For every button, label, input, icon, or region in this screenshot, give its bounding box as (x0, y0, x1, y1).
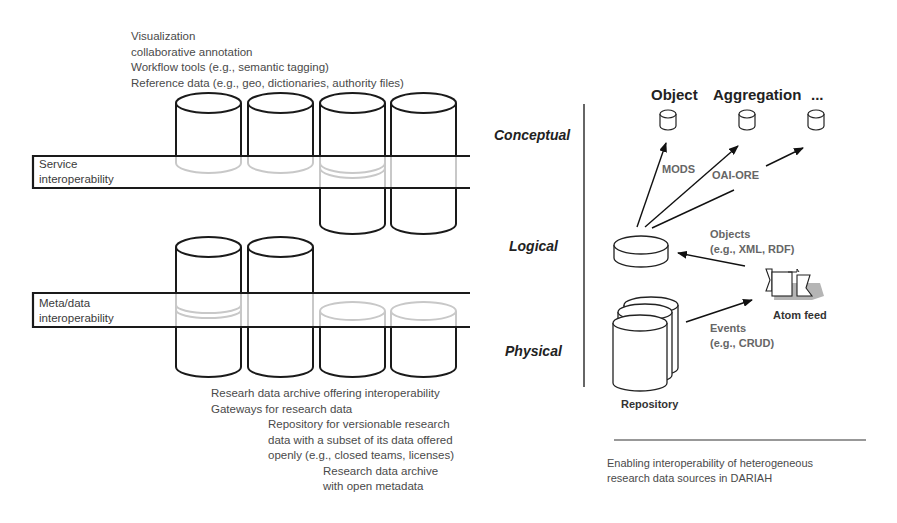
layer-label-conceptual: Conceptual (494, 127, 570, 143)
database-cylinder-icon (320, 93, 385, 234)
description-line: Researh data archive offering interopera… (211, 386, 454, 402)
database-cylinder-icon (176, 93, 241, 156)
mapping-arrows (637, 143, 803, 228)
header-ellipsis: ... (811, 86, 824, 103)
caption-line: Enabling interoperability of heterogeneo… (607, 456, 813, 471)
description-line: Repository for versionable research (211, 417, 454, 433)
capability-label: Reference data (e.g., geo, dictionaries,… (131, 76, 404, 92)
service-band-label: Service interoperability (39, 157, 114, 187)
objects-label: Objects (e.g., XML, RDF) (710, 227, 794, 257)
figure-caption: Enabling interoperability of heterogeneo… (607, 456, 813, 486)
top-capabilities-list: Visualization collaborative annotation W… (131, 29, 404, 91)
events-label-line: (e.g., CRUD) (710, 336, 774, 351)
caption-line: research data sources in DARIAH (607, 471, 813, 486)
atom-feed-label: Atom feed (773, 309, 827, 321)
arrow-to-aggregation (645, 146, 738, 227)
description-line: data with a subset of its data offered (211, 433, 454, 449)
description-line: with open metadata (211, 479, 454, 495)
events-label: Events (e.g., CRUD) (710, 321, 774, 351)
oai-ore-label: OAI-ORE (712, 168, 759, 183)
conceptual-cylinders (660, 110, 824, 130)
band-label-line: interoperability (39, 172, 114, 187)
metadata-layer-cylinders (176, 237, 456, 377)
capability-label: Workflow tools (e.g., semantic tagging) (131, 60, 404, 76)
atom-feed-icon (766, 269, 824, 300)
capability-label: Visualization (131, 29, 404, 45)
database-cylinder-icon (320, 327, 385, 377)
band-label-line: Meta/data (39, 296, 114, 311)
database-cylinder-icon (248, 93, 313, 156)
repository-icon (613, 297, 678, 391)
events-arrow (686, 300, 752, 322)
service-layer-cylinders (176, 93, 456, 234)
mods-label: MODS (662, 162, 695, 177)
band-label-line: Service (39, 157, 114, 172)
aggregation-cylinder-icon (739, 110, 755, 130)
database-cylinder-icon (391, 327, 456, 377)
bottom-descriptions: Researh data archive offering interopera… (211, 386, 454, 495)
metadata-band-ghost-cylinders (176, 294, 456, 326)
metadata-band-label: Meta/data interoperability (39, 296, 114, 326)
description-line: openly (e.g., closed teams, licenses) (211, 448, 454, 464)
description-line: Gateways for research data (211, 402, 454, 418)
database-cylinder-icon (391, 93, 456, 234)
database-cylinder-icon (248, 237, 313, 377)
layer-label-physical: Physical (505, 343, 562, 359)
arrow-to-other (652, 190, 734, 228)
arrow-to-object (637, 143, 666, 227)
description-line: Research data archive (211, 464, 454, 480)
repository-label: Repository (621, 398, 678, 410)
events-label-line: Events (710, 321, 774, 336)
objects-label-line: Objects (710, 227, 794, 242)
other-cylinder-icon (808, 110, 824, 130)
capability-label: collaborative annotation (131, 45, 404, 61)
header-aggregation: Aggregation (713, 86, 801, 103)
object-cylinder-icon (660, 110, 676, 130)
band-label-line: interoperability (39, 311, 114, 326)
logical-store-icon (614, 236, 668, 267)
header-object: Object (651, 86, 698, 103)
layer-label-logical: Logical (509, 238, 558, 254)
database-cylinder-icon (176, 237, 241, 377)
objects-label-line: (e.g., XML, RDF) (710, 242, 794, 257)
service-band-ghost-cylinders (176, 157, 456, 188)
